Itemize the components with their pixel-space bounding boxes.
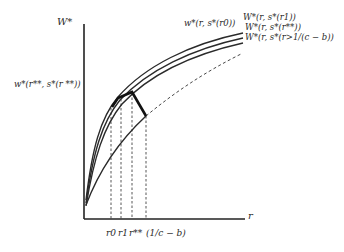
tick-rss: r**: [129, 228, 143, 238]
y-axis-label: W*: [57, 16, 72, 27]
label-curve-r1: W*(r, s*(r1)): [243, 12, 296, 22]
x-axis-label: r: [248, 210, 254, 221]
welfare-diagram: W* r w*(r**, s*(r **)) w*(r, s*(r0)) W*(…: [0, 0, 344, 252]
welfare-curves: [86, 33, 243, 206]
curve-rss: [86, 38, 243, 203]
tick-bound: (1/c − b): [146, 228, 186, 238]
tick-r0: r0: [106, 228, 116, 238]
tick-r1: r1: [118, 228, 128, 238]
curve-rgt: [86, 43, 243, 206]
label-curve-rss: W*(r, s*(r**)): [245, 22, 301, 32]
label-curve-rgt: W*(r, s*(r>1/(c − b)): [245, 32, 334, 42]
x-tick-labels: r0 r1 r** (1/c − b): [106, 228, 186, 238]
left-label: w*(r**, s*(r **)): [14, 79, 81, 89]
axes: [84, 24, 245, 219]
label-curve-r0: w*(r, s*(r0)): [184, 18, 235, 28]
